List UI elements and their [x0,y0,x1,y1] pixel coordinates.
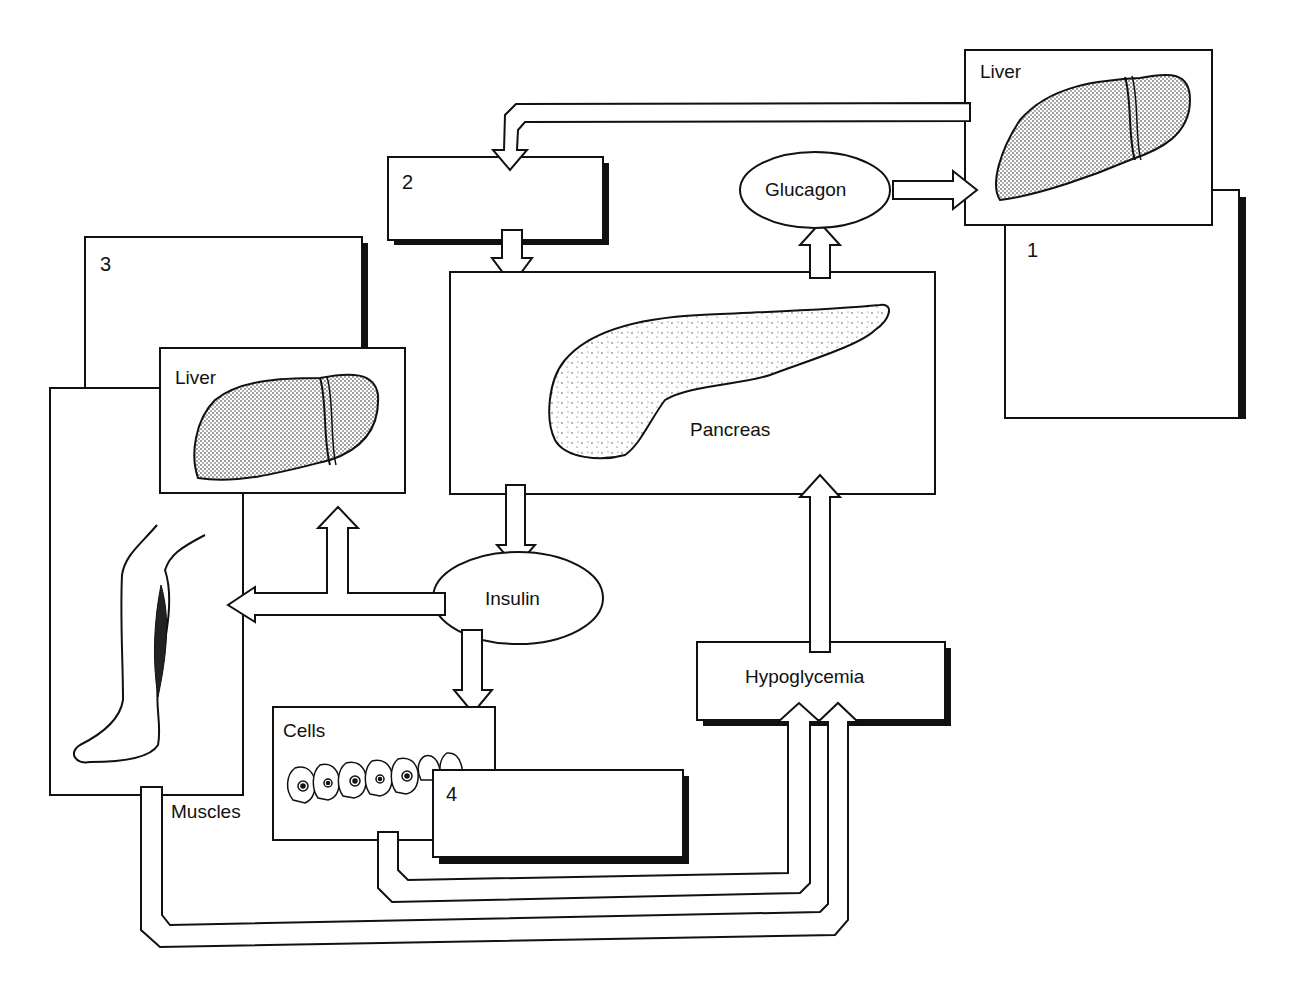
pancreas-label: Pancreas [690,420,770,439]
glucose-regulation-diagram [0,0,1298,995]
insulin-label: Insulin [485,589,540,608]
pancreas-box [450,272,935,494]
box4-number: 4 [446,784,457,804]
cells-label: Cells [283,721,325,740]
box3-number: 3 [100,254,111,274]
box1-number: 1 [1027,240,1038,260]
hypoglycemia-label: Hypoglycemia [745,667,864,686]
answer-box-4[interactable] [433,770,689,864]
glucagon-label: Glucagon [765,180,846,199]
arrow-insulin-to-cells [454,630,492,713]
arrow-insulin-to-muscles-liver [228,507,445,622]
box2-number: 2 [402,172,413,192]
liver-top-label: Liver [980,62,1021,81]
answer-box-2[interactable] [388,157,609,245]
muscles-label: Muscles [171,802,241,821]
arrow-hypoglycemia-to-pancreas [800,475,840,652]
liver-left-label: Liver [175,368,216,387]
arrow-pancreas-to-glucagon [800,223,840,278]
